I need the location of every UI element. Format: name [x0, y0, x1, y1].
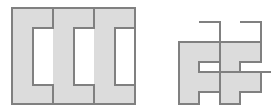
- e-arm-1: [199, 22, 220, 42]
- comb-notch-3: [115, 28, 135, 85]
- left-notches: [33, 28, 135, 85]
- comb-notch-1: [33, 28, 53, 85]
- comb-notch-2: [74, 28, 94, 85]
- tile-dissection-figure: [0, 0, 271, 112]
- left-panel: [12, 8, 135, 104]
